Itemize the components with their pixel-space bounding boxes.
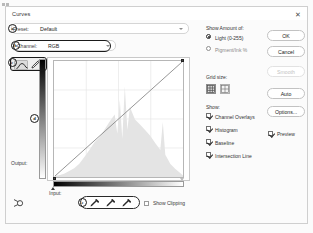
cancel-button[interactable]: Cancel bbox=[267, 46, 305, 57]
grid-size-quarter[interactable] bbox=[206, 84, 216, 94]
output-label: Output: bbox=[11, 160, 27, 166]
show-amount-title: Show Amount of: bbox=[206, 25, 244, 31]
input-gradient-bar[interactable] bbox=[53, 181, 184, 187]
curve-point-white[interactable] bbox=[181, 59, 185, 63]
chevron-down-icon bbox=[179, 28, 183, 30]
gray-point-eyedropper[interactable] bbox=[105, 199, 116, 208]
curves-dialog-app: Curves ✕ Preset: Default Channel: RGB bbox=[0, 0, 313, 233]
label-baseline: Baseline bbox=[215, 140, 234, 146]
chevron-down-icon bbox=[106, 45, 110, 47]
white-input-slider[interactable] bbox=[180, 178, 184, 181]
radio-light-label: Light (0-255) bbox=[215, 35, 243, 41]
radio-pigment-label: Pigment/Ink % bbox=[215, 47, 247, 53]
preset-dropdown[interactable] bbox=[11, 23, 189, 34]
annotation-marker-e: e bbox=[78, 198, 87, 207]
black-point-eyedropper[interactable] bbox=[89, 199, 100, 208]
channel-label: Channel: bbox=[17, 43, 37, 49]
label-channel-overlays: Channel Overlays bbox=[215, 114, 255, 120]
preview-label: Preview bbox=[277, 131, 295, 137]
checkbox-intersection-line[interactable] bbox=[206, 152, 211, 157]
options-button[interactable]: Options... bbox=[267, 106, 305, 117]
target-adjust-icon[interactable] bbox=[13, 198, 25, 208]
annotation-marker-a: a bbox=[8, 24, 17, 33]
page-title: Curves bbox=[12, 11, 30, 17]
output-gradient-bar[interactable] bbox=[39, 59, 46, 179]
input-label: Input: bbox=[49, 190, 62, 196]
show-clipping-checkbox[interactable] bbox=[144, 201, 149, 206]
curve-point-black[interactable] bbox=[53, 177, 57, 181]
annotation-marker-d: d bbox=[30, 114, 39, 123]
annotation-marker-c: c bbox=[8, 58, 17, 67]
channel-value: RGB bbox=[48, 43, 59, 49]
preset-value: Default bbox=[40, 26, 57, 32]
annotation-marker-b: b bbox=[11, 41, 20, 50]
grid-size-title: Grid size: bbox=[206, 74, 227, 80]
checkbox-baseline[interactable] bbox=[206, 139, 211, 144]
ok-button[interactable]: OK bbox=[267, 30, 305, 41]
show-title: Show: bbox=[206, 104, 220, 110]
show-clipping-label: Show Clipping bbox=[153, 200, 185, 206]
label-intersection-line: Intersection Line bbox=[215, 153, 252, 159]
title-bar: Curves ✕ bbox=[5, 6, 308, 20]
eyedropper-group bbox=[80, 196, 140, 209]
checkbox-histogram[interactable] bbox=[206, 126, 211, 131]
close-icon[interactable]: ✕ bbox=[293, 10, 302, 19]
white-point-eyedropper[interactable] bbox=[121, 199, 132, 208]
label-histogram: Histogram bbox=[215, 127, 238, 133]
curve-graph[interactable] bbox=[53, 60, 184, 178]
preview-checkbox[interactable] bbox=[268, 131, 273, 136]
checkbox-channel-overlays[interactable] bbox=[206, 113, 211, 118]
auto-button[interactable]: Auto bbox=[267, 88, 305, 99]
grid-size-tenth[interactable] bbox=[220, 84, 230, 94]
smooth-button: Smooth bbox=[267, 66, 305, 77]
